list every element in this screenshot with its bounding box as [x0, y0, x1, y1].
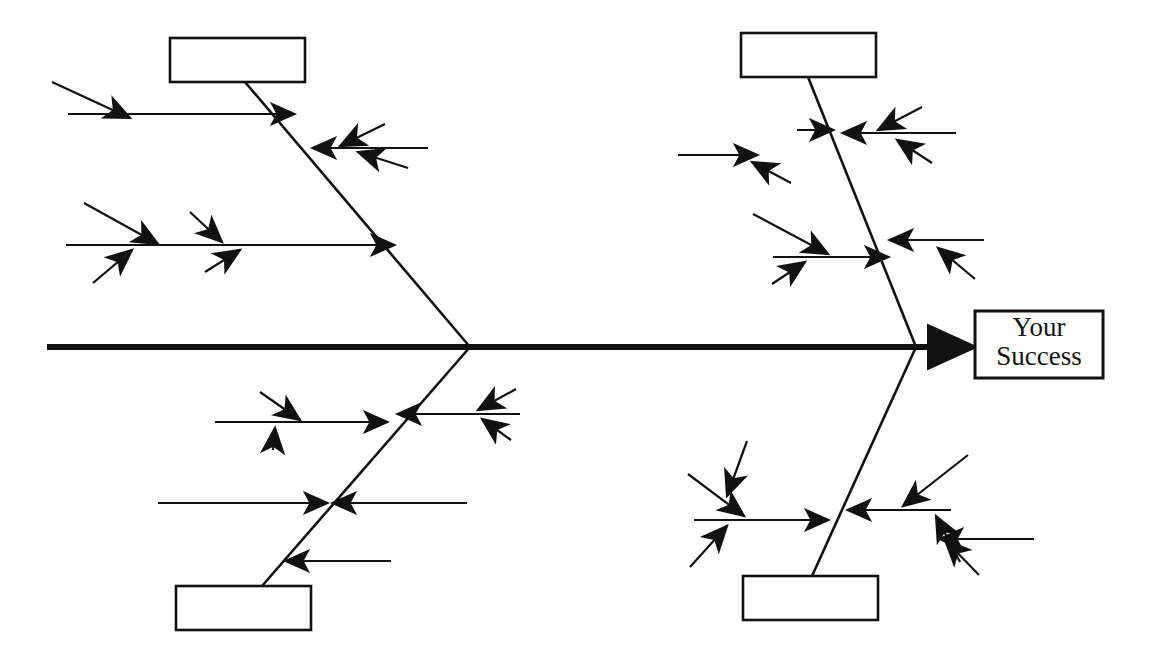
sub-cause-bl-s3[interactable] — [478, 389, 516, 410]
sub-cause-tl-s4[interactable] — [84, 203, 158, 244]
sub-cause-bl-s2[interactable] — [273, 428, 275, 450]
category-box-rect-bottom-right[interactable] — [743, 576, 878, 620]
sub-cause-tr-s1[interactable] — [752, 162, 791, 183]
sub-cause-tr-s4[interactable] — [753, 214, 828, 254]
category-box-rect-top-left[interactable] — [170, 38, 305, 82]
category-spine-top-left[interactable] — [245, 82, 470, 347]
category-box-top-left[interactable] — [170, 38, 305, 82]
sub-cause-tl-s3[interactable] — [358, 152, 408, 168]
category-box-top-right[interactable] — [741, 33, 876, 77]
effect-label-line1: Your — [1013, 312, 1066, 342]
category-box-bottom-left[interactable] — [176, 586, 311, 630]
sub-cause-br-s3[interactable] — [690, 526, 727, 567]
sub-cause-tr-s2[interactable] — [878, 107, 922, 130]
category-box-group — [170, 33, 878, 630]
category-box-rect-bottom-left[interactable] — [176, 586, 311, 630]
sub-cause-tl-s2[interactable] — [340, 124, 385, 146]
sub-cause-tl-s5[interactable] — [93, 250, 132, 283]
sub-cause-bl-s1[interactable] — [260, 392, 300, 420]
sub-cause-tl-s1[interactable] — [52, 82, 130, 118]
effect-label-line2: Success — [996, 341, 1081, 371]
category-spine-bottom-left[interactable] — [262, 347, 470, 586]
sub-cause-tl-s6[interactable] — [190, 212, 222, 242]
sub-cause-tl-s7[interactable] — [205, 250, 240, 272]
effect-box-group[interactable]: Your Success — [975, 311, 1103, 378]
fishbone-diagram-canvas: Your Success — [0, 0, 1155, 660]
sub-cause-bl-s4[interactable] — [482, 419, 511, 440]
sub-cause-br-s6[interactable] — [945, 540, 979, 575]
fishbone-svg: Your Success — [0, 0, 1155, 660]
sub-cause-br-s2[interactable] — [688, 474, 744, 516]
sub-cause-br-s4[interactable] — [903, 455, 968, 506]
bone-group — [66, 114, 1034, 561]
category-spine-group — [245, 77, 916, 586]
sub-cause-tr-s5[interactable] — [772, 262, 805, 284]
category-spine-bottom-right[interactable] — [812, 347, 916, 576]
sub-cause-br-s1[interactable] — [727, 441, 747, 496]
sub-cause-tr-s6[interactable] — [938, 248, 975, 279]
category-box-rect-top-right[interactable] — [741, 33, 876, 77]
sub-cause-tr-s3[interactable] — [897, 140, 932, 163]
category-box-bottom-right[interactable] — [743, 576, 878, 620]
